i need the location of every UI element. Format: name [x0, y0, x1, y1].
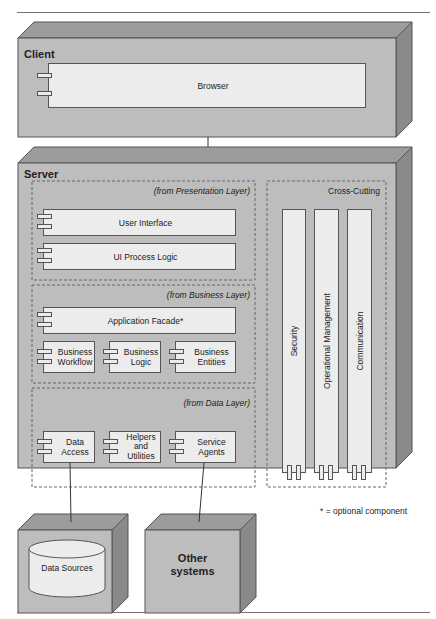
component-port-icon	[37, 91, 52, 96]
component-port-icon	[169, 439, 184, 444]
security-label: Security	[289, 326, 299, 357]
component-port-icon	[169, 449, 184, 454]
component-port-icon	[103, 359, 118, 364]
component-port-icon	[361, 465, 366, 480]
component-port-icon	[169, 359, 184, 364]
data-package-label: (from Data Layer)	[120, 398, 250, 408]
cross-cutting-package-label: Cross-Cutting	[328, 186, 380, 196]
browser-label: Browser	[185, 81, 228, 91]
component-port-icon	[287, 465, 292, 480]
client-node-title: Client	[24, 48, 55, 60]
component-port-icon	[103, 439, 118, 444]
component-port-icon	[37, 322, 52, 327]
application-facade-component[interactable]: Application Facade*	[43, 307, 236, 334]
application-facade-label: Application Facade*	[96, 316, 184, 326]
ui-process-logic-label: UI Process Logic	[101, 252, 177, 262]
business-entities-component[interactable]: Business Entities	[175, 341, 236, 373]
component-port-icon	[37, 439, 52, 444]
component-port-icon	[37, 214, 52, 219]
ui-process-logic-component[interactable]: UI Process Logic	[43, 243, 236, 270]
presentation-package-label: (from Presentation Layer)	[120, 186, 250, 196]
component-port-icon	[37, 258, 52, 263]
service-agents-component[interactable]: Service Agents	[175, 431, 236, 463]
other-systems-label[interactable]: Other systems	[145, 552, 240, 578]
user-interface-component[interactable]: User Interface	[43, 209, 236, 236]
business-logic-component[interactable]: Business Logic	[109, 341, 161, 373]
component-port-icon	[37, 312, 52, 317]
business-entities-label: Business Entities	[182, 347, 229, 367]
communication-label: Communication	[355, 311, 365, 370]
communication-component[interactable]: Communication	[347, 209, 372, 473]
component-port-icon	[37, 248, 52, 253]
business-logic-label: Business Logic	[112, 347, 159, 367]
service-agents-connector	[199, 463, 204, 522]
component-port-icon	[37, 224, 52, 229]
business-workflow-component[interactable]: Business Workflow	[43, 341, 95, 373]
security-component[interactable]: Security	[282, 209, 306, 473]
server-node-title: Server	[24, 168, 58, 180]
component-port-icon	[328, 465, 333, 480]
data-sources-label[interactable]: Data Sources	[29, 563, 105, 573]
component-port-icon	[319, 465, 324, 480]
legend-optional-component: * = optional component	[320, 506, 407, 516]
data-access-connector	[70, 463, 71, 522]
component-port-icon	[103, 449, 118, 454]
data-access-label: Data Access	[49, 437, 88, 457]
user-interface-label: User Interface	[107, 218, 172, 228]
operational-management-label: Operational Management	[322, 293, 332, 389]
operational-management-component[interactable]: Operational Management	[314, 209, 339, 473]
component-port-icon	[103, 349, 118, 354]
component-port-icon	[169, 349, 184, 354]
browser-component[interactable]: Browser	[48, 63, 366, 108]
component-port-icon	[37, 349, 52, 354]
component-port-icon	[296, 465, 301, 480]
service-agents-label: Service Agents	[185, 437, 225, 457]
component-port-icon	[352, 465, 357, 480]
component-port-icon	[37, 73, 52, 78]
component-port-icon	[37, 449, 52, 454]
helpers-and-utilities-component[interactable]: Helpers and Utilities	[109, 431, 161, 463]
data-access-component[interactable]: Data Access	[43, 431, 95, 463]
business-package-label: (from Business Layer)	[120, 290, 250, 300]
helpers-and-utilities-label: Helpers and Utilities	[114, 433, 155, 462]
component-port-icon	[37, 359, 52, 364]
business-workflow-label: Business Workflow	[46, 347, 93, 367]
